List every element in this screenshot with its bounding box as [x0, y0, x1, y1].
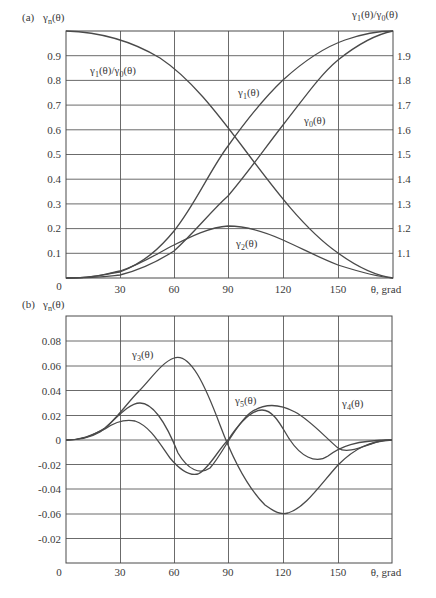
- svg-text:0.08: 0.08: [42, 335, 62, 347]
- panel-a-x-ticks: 0 30 60 90 120 150 θ, grad: [56, 280, 401, 295]
- svg-text:90: 90: [223, 283, 235, 295]
- svg-text:1.6: 1.6: [397, 124, 411, 136]
- svg-text:60: 60: [169, 283, 181, 295]
- label-gamma1-over-gamma0: γ1(θ)/γ0(θ): [89, 64, 136, 79]
- label-gamma2: γ2(θ): [235, 237, 258, 252]
- label-gamma5: γ5(θ): [234, 394, 257, 409]
- panel-b-curves: [66, 357, 392, 513]
- svg-text:1.9: 1.9: [397, 50, 411, 62]
- panel-b-left-ticks: 0.08 0.06 0.04 0.02 0 -0.02 -0.04 -0.06 …: [38, 335, 61, 545]
- svg-text:1.8: 1.8: [397, 74, 411, 86]
- svg-text:-0.02: -0.02: [38, 459, 61, 471]
- panel-b-x-axis-title: θ, grad: [371, 566, 402, 578]
- svg-text:-0.06: -0.06: [38, 508, 61, 520]
- label-gamma3: γ3(θ): [131, 348, 154, 363]
- svg-text:0.5: 0.5: [47, 148, 61, 160]
- svg-text:30: 30: [115, 283, 127, 295]
- svg-text:0.7: 0.7: [47, 99, 61, 111]
- svg-text:0: 0: [56, 434, 62, 446]
- svg-text:0.1: 0.1: [47, 247, 61, 259]
- svg-text:120: 120: [275, 566, 292, 578]
- svg-text:1.2: 1.2: [397, 222, 411, 234]
- svg-text:0: 0: [56, 566, 62, 578]
- svg-text:0.02: 0.02: [42, 410, 61, 422]
- svg-text:0.8: 0.8: [47, 74, 61, 86]
- panel-a-right-axis-title: γ1(θ)/γ0(θ): [351, 8, 398, 23]
- svg-text:1.4: 1.4: [397, 173, 411, 185]
- panel-a-right-ticks: 1.9 1.8 1.7 1.6 1.5 1.4 1.3 1.2 1.1: [397, 50, 411, 260]
- label-gamma4: γ4(θ): [341, 397, 364, 412]
- svg-text:30: 30: [115, 566, 127, 578]
- svg-text:1.5: 1.5: [397, 148, 411, 160]
- svg-text:1.7: 1.7: [397, 99, 411, 111]
- svg-text:0.3: 0.3: [47, 198, 61, 210]
- label-gamma0: γ0(θ): [303, 114, 326, 129]
- curve-gamma3: [66, 357, 392, 513]
- svg-text:0.04: 0.04: [42, 385, 62, 397]
- panel-b-x-ticks: 0 30 60 90 120 150 θ, grad: [56, 566, 401, 578]
- panel-a-label: (a): [22, 11, 35, 24]
- panel-b-label: (b): [22, 298, 35, 311]
- figure: (a) γn(θ) γ1(θ)/γ0(θ) 0.9 0.8 0.7 0.: [0, 0, 436, 598]
- svg-text:0.2: 0.2: [47, 222, 61, 234]
- svg-text:120: 120: [275, 283, 292, 295]
- panel-a-left-ticks: 0.9 0.8 0.7 0.6 0.5 0.4 0.3 0.2 0.1: [47, 50, 61, 260]
- svg-text:1.1: 1.1: [397, 247, 411, 259]
- panel-a-x-axis-title: θ, grad: [371, 283, 402, 295]
- panel-b: (b) γn(θ) 0.08 0.06 0.04 0.02 0 -0.02: [22, 298, 402, 578]
- label-gamma1: γ1(θ): [237, 86, 260, 101]
- svg-text:90: 90: [223, 566, 235, 578]
- panel-b-y-axis-title: γn(θ): [42, 298, 65, 313]
- svg-text:0: 0: [56, 280, 62, 292]
- svg-text:150: 150: [330, 566, 347, 578]
- svg-text:-0.04: -0.04: [38, 483, 61, 495]
- svg-text:0.9: 0.9: [47, 50, 61, 62]
- panel-a-y-axis-title: γn(θ): [42, 11, 65, 26]
- panel-a: (a) γn(θ) γ1(θ)/γ0(θ) 0.9 0.8 0.7 0.: [22, 8, 411, 295]
- svg-text:0.6: 0.6: [47, 124, 61, 136]
- curve-gamma2: [66, 226, 393, 278]
- svg-text:0.06: 0.06: [42, 360, 62, 372]
- svg-text:1.3: 1.3: [397, 198, 411, 210]
- svg-text:-0.02: -0.02: [38, 533, 61, 545]
- svg-text:60: 60: [169, 566, 181, 578]
- svg-text:150: 150: [330, 283, 347, 295]
- svg-text:0.4: 0.4: [47, 173, 61, 185]
